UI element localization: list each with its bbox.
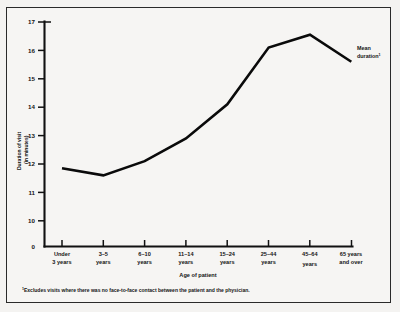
annotation-line1: Mean [357,45,371,51]
x-tick-label-4-line1: 15–24 [219,251,235,257]
mean-duration-annotation: Mean duration1 [357,45,381,59]
y-tick-label-11: 11 [28,189,35,196]
x-axis-title: Age of patient [179,272,216,278]
x-tick-label-0-line2: 3 years [52,259,71,265]
x-tick-label-7-line1: 65 years [340,251,362,257]
footnote-text: Excludes visits where there was no face-… [24,287,250,293]
y-tick-label-15: 15 [28,75,35,82]
annotation-line2: duration1 [357,53,381,59]
y-axis-zero-label: 0 [32,243,36,250]
x-tick-label-5-line1: 25–44 [261,251,277,257]
x-tick-labels: Under 3 years 3–5 years 6–10 years 11–14… [52,251,363,267]
y-tick-label-17: 17 [28,18,35,25]
footnote: 1Excludes visits where there was no face… [22,287,250,293]
x-tick-label-3-line2: years [179,259,194,265]
annotation-footnote-marker: 1 [379,53,381,57]
x-tick-label-6-line1: 45–64 [302,251,318,257]
x-tick-label-2-line2: years [137,259,152,265]
x-tick-label-1-line1: 3–5 [99,251,108,257]
line-chart: 17 16 15 14 13 12 11 10 0 Duration of vi… [0,0,400,312]
x-tick-label-3-line1: 11–14 [178,251,194,257]
x-tick-label-0-line1: Under [54,251,71,257]
x-tick-label-4-line2: years [220,259,235,265]
annotation-line2-text: duration [357,53,379,59]
y-tick-label-10: 10 [28,217,35,224]
x-tick-label-7-line2: and over [339,259,363,265]
y-axis-title-line2: (in minutes) [23,135,29,164]
y-axis-title: Duration of visit (in minutes) [16,132,29,170]
y-tick-labels: 17 16 15 14 13 12 11 10 0 [28,18,35,250]
mean-duration-line [62,35,351,176]
x-tick-label-1-line2: years [96,259,111,265]
x-tick-label-5-line2: years [261,259,276,265]
y-tick-label-16: 16 [28,47,35,54]
y-tick-label-12: 12 [28,160,35,167]
y-tick-label-13: 13 [28,132,35,139]
x-tick-label-6-line2: years [302,261,317,267]
y-tick-label-14: 14 [28,103,35,110]
y-axis-title-line1: Duration of visit [16,132,22,170]
x-tick-label-2-line1: 6–10 [138,251,150,257]
chart-page: 17 16 15 14 13 12 11 10 0 Duration of vi… [0,0,400,312]
